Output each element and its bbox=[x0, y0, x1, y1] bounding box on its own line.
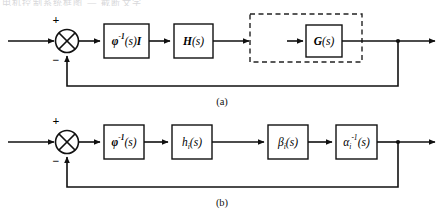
block-H-s[interactable]: H(s) bbox=[174, 24, 213, 58]
diagram-a: + − φ-1(s)I H(s) G(s) bbox=[8, 13, 435, 108]
block-alpha-i-inv[interactable]: αi-1(s) bbox=[336, 125, 377, 159]
minus-sign-label-a: − bbox=[53, 53, 60, 67]
plus-sign-label-a: + bbox=[53, 13, 60, 27]
block-h-i[interactable]: hi(s) bbox=[172, 125, 212, 159]
block-phi-inv[interactable]: φ-1(s) bbox=[104, 125, 144, 159]
block-H-s-label: H(s) bbox=[182, 35, 204, 48]
block-phi-inv-I-label: φ-1(s)I bbox=[112, 32, 142, 47]
caption-a: (a) bbox=[216, 96, 228, 108]
minus-sign-label-b: − bbox=[53, 154, 60, 168]
caption-b: (b) bbox=[216, 197, 229, 209]
block-beta-i[interactable]: βi(s) bbox=[268, 125, 308, 159]
block-phi-inv-I[interactable]: φ-1(s)I bbox=[104, 24, 149, 58]
summing-junction-b[interactable]: + − bbox=[53, 114, 79, 168]
block-phi-inv-label: φ-1(s) bbox=[111, 133, 136, 148]
figure-canvas: + − φ-1(s)I H(s) G(s) bbox=[0, 0, 445, 220]
summing-junction-a[interactable]: + − bbox=[53, 13, 79, 67]
block-G-s[interactable]: G(s) bbox=[306, 25, 342, 57]
diagram-b: + − φ-1(s) hi(s) βi(s) αi-1(s) bbox=[8, 114, 435, 209]
block-diagram-svg: + − φ-1(s)I H(s) G(s) bbox=[0, 0, 445, 220]
plus-sign-label-b: + bbox=[53, 114, 60, 128]
block-G-s-label: G(s) bbox=[314, 34, 335, 47]
